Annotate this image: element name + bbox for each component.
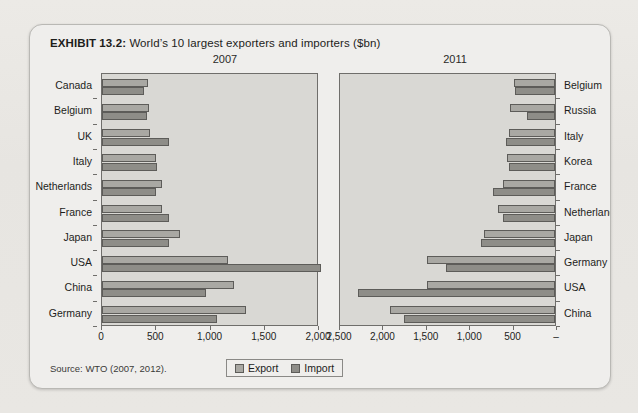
chart-plot-2007 [101, 73, 318, 326]
x-axis-tick [382, 326, 383, 330]
legend-label-export: Export [248, 362, 278, 374]
y-axis-tick [556, 174, 560, 175]
category-label: Belgium [564, 73, 602, 98]
bar-row [340, 226, 555, 251]
export-bar [102, 256, 228, 264]
import-bar [102, 188, 156, 196]
export-bar [507, 154, 555, 162]
category-label: USA [564, 275, 586, 300]
bar-row [102, 226, 317, 251]
y-axis-tick [93, 149, 97, 150]
bar-row [102, 251, 317, 276]
bar-row [340, 99, 555, 124]
export-bar [503, 180, 555, 188]
bar-row [340, 175, 555, 200]
category-label: France [59, 200, 92, 225]
x-axis-tick [155, 326, 156, 330]
import-bar [527, 112, 555, 120]
x-axis-label: 0 [98, 331, 104, 342]
bar-row [102, 201, 317, 226]
category-label: Belgium [54, 98, 92, 123]
x-axis-tick [556, 326, 557, 330]
import-bar [102, 163, 157, 171]
x-axis-label: 500 [147, 331, 164, 342]
bar-row [102, 74, 317, 99]
y-axis-tick [93, 275, 97, 276]
category-label: USA [70, 250, 92, 275]
x-axis-tick [318, 326, 319, 330]
export-bar [102, 129, 150, 137]
category-label: Netherlands [35, 174, 92, 199]
category-label: China [564, 301, 591, 326]
export-bar [102, 306, 246, 314]
value-axis-2007: 05001,0001,5002,000 [101, 326, 318, 352]
export-bar [514, 79, 555, 87]
charts-container: 2007 2011 CanadaBelgiumUKItalyNetherland… [30, 25, 610, 388]
category-label: Netherlands [564, 200, 611, 225]
category-axis-2011: BelgiumRussiaItalyKoreaFranceNetherlands… [560, 73, 611, 326]
chart-plot-2011 [339, 73, 556, 326]
import-bar [404, 315, 555, 323]
x-axis-label: 2,000 [370, 331, 395, 342]
import-bar [481, 239, 555, 247]
x-axis-label: 2,500 [326, 331, 351, 342]
x-axis-tick [264, 326, 265, 330]
bar-row [102, 150, 317, 175]
export-bar [102, 79, 148, 87]
bar-group-2011 [340, 74, 555, 325]
category-label: Japan [63, 225, 92, 250]
x-axis-tick [426, 326, 427, 330]
import-bar [506, 138, 555, 146]
bar-group-2007 [102, 74, 317, 325]
x-axis-label: 500 [504, 331, 521, 342]
export-bar [102, 180, 162, 188]
y-axis-tick [556, 149, 560, 150]
category-label: Germany [49, 301, 92, 326]
category-label: Korea [564, 149, 592, 174]
x-axis-tick [469, 326, 470, 330]
category-label: Italy [73, 149, 92, 174]
category-label: Russia [564, 98, 596, 123]
export-bar [102, 104, 149, 112]
y-axis-tick [93, 124, 97, 125]
y-axis-tick [93, 98, 97, 99]
category-axis-2007: CanadaBelgiumUKItalyNetherlandsFranceJap… [30, 73, 97, 326]
import-bar [358, 289, 555, 297]
import-bar [515, 87, 555, 95]
category-label: France [564, 174, 597, 199]
bar-row [340, 201, 555, 226]
x-axis-label: 1,500 [413, 331, 438, 342]
category-label: UK [77, 124, 92, 149]
y-axis-tick [93, 174, 97, 175]
y-axis-tick [93, 225, 97, 226]
y-axis-tick [556, 275, 560, 276]
bar-row [340, 125, 555, 150]
export-bar [498, 205, 555, 213]
category-label: Germany [564, 250, 607, 275]
legend-item-import: Import [291, 362, 334, 374]
bar-row [340, 251, 555, 276]
bar-row [340, 150, 555, 175]
y-axis-tick [93, 200, 97, 201]
value-axis-2011: 2,5002,0001,5001,000500– [339, 326, 556, 352]
legend-item-export: Export [235, 362, 278, 374]
export-bar [102, 230, 180, 238]
import-bar [102, 87, 144, 95]
y-axis-tick [556, 98, 560, 99]
source-note: Source: WTO (2007, 2012). [50, 363, 167, 374]
export-bar [484, 230, 555, 238]
y-axis-tick [93, 301, 97, 302]
import-bar [102, 264, 321, 272]
bar-row [102, 99, 317, 124]
category-label: Japan [564, 225, 593, 250]
x-axis-tick [210, 326, 211, 330]
export-bar [102, 205, 162, 213]
y-axis-tick [556, 301, 560, 302]
export-bar [509, 129, 555, 137]
category-label: Canada [55, 73, 92, 98]
y-axis-tick [556, 250, 560, 251]
x-axis-tick [513, 326, 514, 330]
import-swatch-icon [291, 364, 300, 373]
y-axis-tick [93, 326, 97, 327]
x-axis-tick [101, 326, 102, 330]
